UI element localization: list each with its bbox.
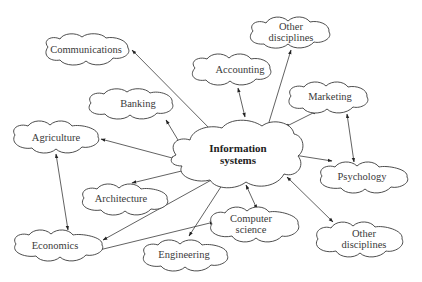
edge-agriculture-economics	[56, 154, 68, 230]
label-other-disciplines-top: Other disciplines	[269, 21, 314, 43]
label-economics: Economics	[32, 240, 79, 251]
edge-is-marketing	[285, 111, 317, 127]
label-other-top-line1: Other	[269, 21, 314, 32]
label-engineering: Engineering	[158, 249, 209, 260]
label-architecture: Architecture	[95, 193, 147, 204]
label-marketing: Marketing	[308, 91, 352, 102]
edge-is-computer-science	[246, 185, 257, 209]
edge-is-other-top	[266, 50, 291, 132]
edge-is-agriculture	[101, 139, 176, 159]
label-accounting: Accounting	[216, 64, 265, 75]
label-is-line1: Information	[209, 142, 266, 154]
label-psychology: Psychology	[337, 171, 386, 182]
edge-is-accounting	[238, 88, 245, 117]
label-banking: Banking	[120, 98, 156, 109]
label-agriculture: Agriculture	[32, 132, 80, 143]
label-other-disciplines-bottom: Other disciplines	[342, 228, 387, 250]
label-cs-line2: science	[230, 224, 272, 235]
label-cs-line1: Computer	[230, 213, 272, 224]
label-computer-science: Computer science	[230, 213, 272, 235]
label-other-bottom-line1: Other	[342, 228, 387, 239]
label-communications: Communications	[50, 44, 122, 55]
label-is-line2: systems	[209, 154, 266, 166]
edge-marketing-psychology	[347, 114, 354, 162]
label-information-systems: Information systems	[209, 142, 266, 166]
label-other-bottom-line2: disciplines	[342, 239, 387, 250]
label-other-top-line2: disciplines	[269, 32, 314, 43]
